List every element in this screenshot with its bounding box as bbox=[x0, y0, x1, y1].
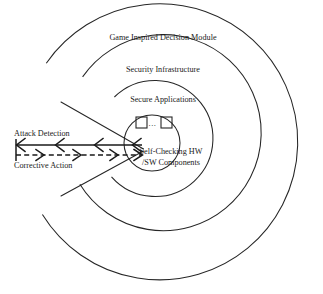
attack-detection-arrow: Attack Detection bbox=[14, 129, 142, 152]
wedge-lower-edge bbox=[61, 151, 144, 196]
diagram-root: Game Inspired Decision Module Security I… bbox=[0, 0, 323, 294]
corrective-action-arrow: Corrective Action bbox=[14, 150, 143, 170]
core-label-line2: /SW Components bbox=[142, 158, 200, 167]
corrective-action-label: Corrective Action bbox=[14, 161, 72, 170]
ring-label-outer: Game Inspired Decision Module bbox=[109, 33, 216, 42]
ring-label-third: Secure Applications bbox=[130, 95, 196, 104]
component-ellipsis: ... bbox=[148, 118, 156, 128]
ring-label-second: Security Infrastructure bbox=[126, 65, 200, 74]
attack-detection-label: Attack Detection bbox=[14, 129, 70, 138]
layered-security-diagram: Game Inspired Decision Module Security I… bbox=[0, 0, 323, 294]
wedge-upper-edge bbox=[61, 102, 144, 149]
ring-outer-arc bbox=[42, 4, 297, 280]
core-label: Self-Checking HW /SW Components bbox=[140, 147, 203, 167]
core-label-line1: Self-Checking HW bbox=[140, 147, 203, 156]
ring-outer bbox=[42, 4, 297, 280]
